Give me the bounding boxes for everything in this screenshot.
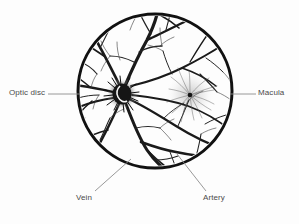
- label-optic-disc: Optic disc: [9, 88, 45, 98]
- label-artery: Artery: [203, 193, 225, 203]
- retinal-fundus-figure: [0, 0, 299, 224]
- retina-diagram-page: Optic disc Macula Vein Artery: [0, 0, 299, 224]
- fovea-spot: [188, 93, 193, 98]
- label-vein: Vein: [76, 193, 92, 203]
- label-macula: Macula: [258, 88, 284, 98]
